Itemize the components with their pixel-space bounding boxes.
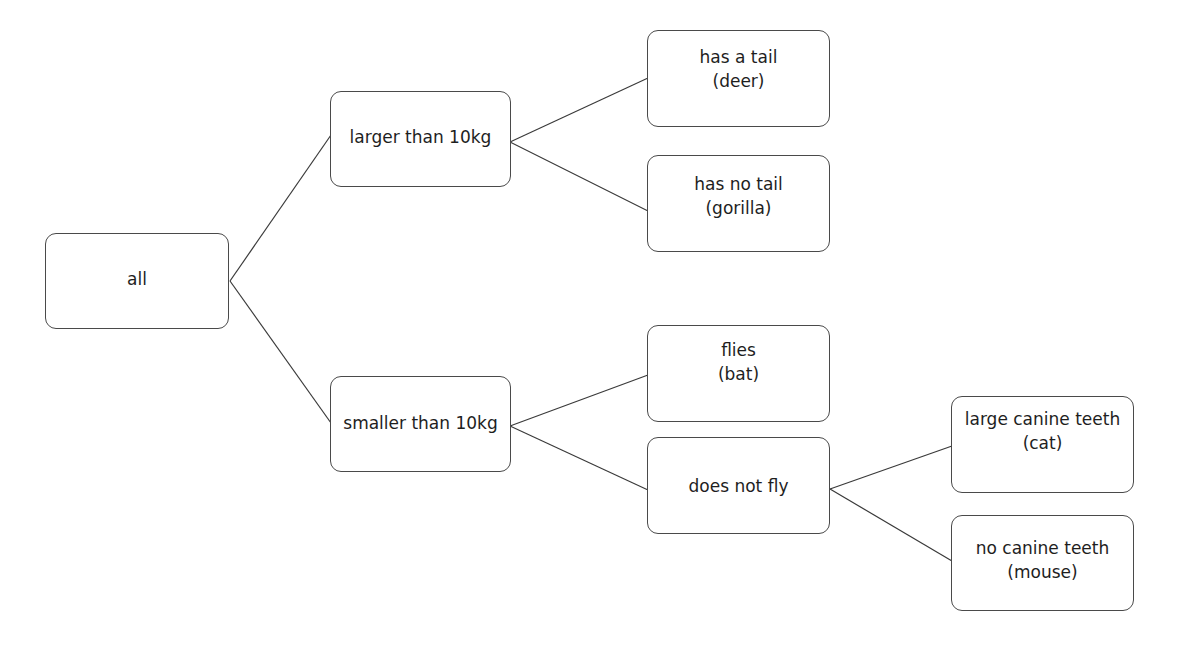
node-notfly-label: does not fly — [648, 474, 829, 498]
node-cat-line1: large canine teeth — [952, 407, 1133, 431]
node-large-canine-teeth-cat: large canine teeth (cat) — [951, 396, 1134, 493]
node-has-a-tail-deer: has a tail (deer) — [647, 30, 830, 127]
edge-smaller-notfly — [510, 426, 648, 490]
node-cat-line2: (cat) — [952, 431, 1133, 455]
edge-larger-deer — [510, 78, 648, 142]
node-all-label: all — [46, 267, 228, 291]
node-no-canine-teeth-mouse: no canine teeth (mouse) — [951, 515, 1134, 611]
node-larger-than-10kg: larger than 10kg — [330, 91, 511, 187]
node-gorilla-line2: (gorilla) — [648, 196, 829, 220]
edge-smaller-bat — [510, 375, 648, 426]
node-gorilla-line1: has no tail — [648, 172, 829, 196]
node-larger-label: larger than 10kg — [331, 125, 510, 149]
node-bat-line2: (bat) — [648, 362, 829, 386]
decision-tree-diagram: all larger than 10kg smaller than 10kg h… — [0, 0, 1186, 646]
node-bat-line1: flies — [648, 338, 829, 362]
node-smaller-than-10kg: smaller than 10kg — [330, 376, 511, 472]
node-mouse-line2: (mouse) — [952, 560, 1133, 584]
node-has-no-tail-gorilla: has no tail (gorilla) — [647, 155, 830, 252]
edge-larger-gorilla — [510, 142, 648, 211]
node-flies-bat: flies (bat) — [647, 325, 830, 422]
node-does-not-fly: does not fly — [647, 437, 830, 534]
node-smaller-label: smaller than 10kg — [331, 411, 510, 435]
edge-all-smaller — [230, 281, 331, 423]
node-deer-line2: (deer) — [648, 69, 829, 93]
node-all: all — [45, 233, 229, 329]
node-mouse-line1: no canine teeth — [952, 536, 1133, 560]
node-deer-line1: has a tail — [648, 45, 829, 69]
edge-all-larger — [230, 135, 331, 281]
edge-notfly-cat — [830, 446, 952, 489]
edge-notfly-mouse — [830, 489, 952, 561]
